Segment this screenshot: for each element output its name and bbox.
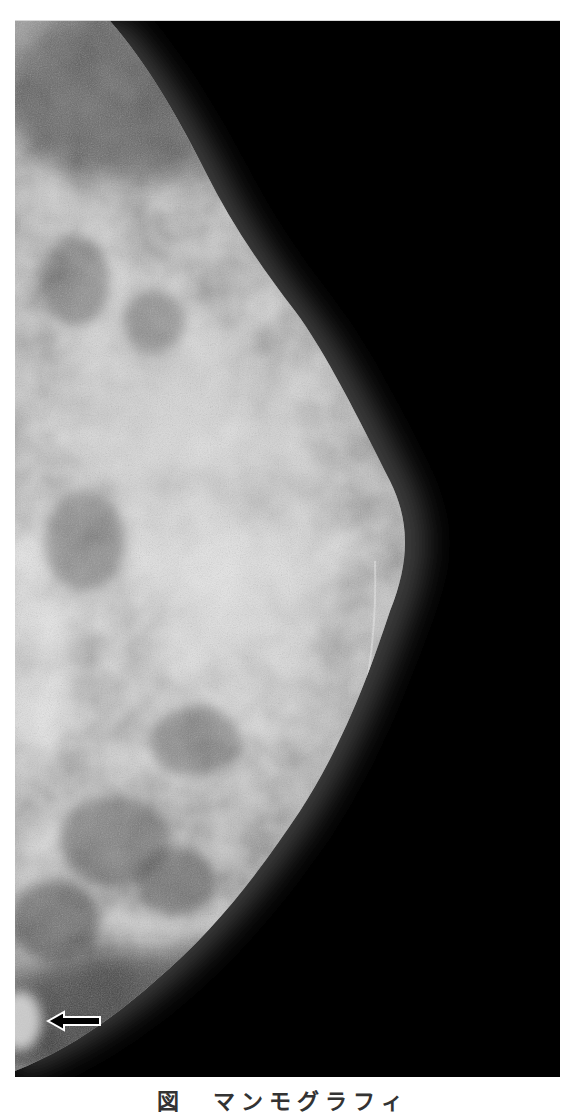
mammogram-figure xyxy=(15,20,560,1077)
figure-caption: 図 マンモグラフィ xyxy=(0,1083,566,1113)
mammogram-image xyxy=(15,21,560,1077)
